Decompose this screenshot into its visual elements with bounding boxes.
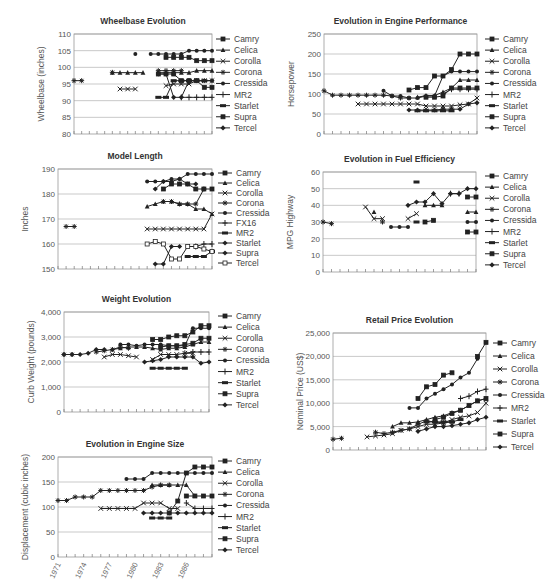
legend-item: Celica bbox=[218, 178, 260, 188]
legend-marker-icon bbox=[490, 252, 494, 256]
data-point bbox=[79, 78, 84, 83]
y-tick-label: 50 bbox=[46, 528, 55, 537]
legend-item: Corolla bbox=[485, 193, 530, 203]
data-point bbox=[458, 52, 462, 56]
data-point bbox=[433, 74, 437, 78]
data-point bbox=[184, 494, 188, 498]
legend-marker-icon bbox=[223, 358, 227, 362]
legend-label: Supra bbox=[503, 112, 526, 122]
legend-item: Corona bbox=[485, 67, 531, 77]
legend-label: Tercel bbox=[236, 258, 259, 268]
data-point bbox=[372, 209, 377, 214]
legend-label: Tercel bbox=[236, 400, 259, 410]
y-tick-label: 50 bbox=[311, 185, 320, 194]
legend-label: Celica bbox=[236, 322, 260, 332]
data-point bbox=[475, 70, 479, 74]
y-tick-label: 90 bbox=[62, 97, 71, 106]
chart-title: Evolution in Engine Size bbox=[86, 439, 185, 449]
legend-item: Celica bbox=[485, 45, 527, 55]
legend-label: Camry bbox=[234, 34, 260, 44]
y-tick-label: 160 bbox=[42, 240, 56, 249]
y-tick-label: 100 bbox=[308, 90, 322, 99]
y-tick-label: 0 bbox=[326, 446, 331, 455]
y-tick-label: 10 bbox=[311, 251, 320, 260]
legend-marker-icon bbox=[222, 240, 227, 245]
legend-marker-icon bbox=[220, 104, 226, 107]
legend-item: FX16 bbox=[218, 218, 257, 228]
x-tick-label: 1974 bbox=[348, 454, 363, 455]
data-point bbox=[98, 488, 103, 493]
series-line bbox=[461, 389, 487, 398]
data-point bbox=[81, 495, 86, 500]
y-tick-label: 5,000 bbox=[310, 423, 331, 432]
legend-item: Corona bbox=[218, 344, 264, 354]
legend-item: Celica bbox=[485, 182, 527, 192]
data-point bbox=[177, 176, 182, 181]
data-point bbox=[199, 324, 203, 328]
legend-label: FX16 bbox=[236, 218, 257, 228]
data-point bbox=[195, 49, 199, 53]
legend-label: Supra bbox=[236, 248, 259, 258]
data-point bbox=[390, 94, 394, 98]
legend-label: Corona bbox=[236, 198, 264, 208]
data-point bbox=[483, 415, 488, 420]
data-point bbox=[467, 70, 471, 74]
y-axis-label: Displacement (cubic inches) bbox=[20, 454, 30, 560]
data-point bbox=[424, 420, 430, 423]
data-point bbox=[201, 255, 207, 258]
y-tick-label: 3,000 bbox=[41, 333, 62, 342]
data-point bbox=[194, 94, 199, 100]
y-tick-label: 2,000 bbox=[41, 358, 62, 367]
data-point bbox=[176, 471, 180, 475]
data-point bbox=[142, 359, 147, 364]
data-point bbox=[143, 343, 147, 347]
x-tick-label: 1986 bbox=[176, 561, 191, 579]
data-point bbox=[56, 498, 61, 503]
legend-label: Celica bbox=[234, 45, 258, 55]
data-point bbox=[458, 70, 462, 74]
data-point bbox=[175, 334, 179, 338]
data-point bbox=[118, 343, 122, 347]
y-tick-label: 15,000 bbox=[306, 376, 331, 385]
data-point bbox=[187, 49, 191, 53]
data-point bbox=[390, 430, 395, 435]
data-point bbox=[185, 255, 191, 258]
data-point bbox=[72, 224, 77, 229]
data-point bbox=[373, 430, 378, 435]
data-point bbox=[414, 181, 420, 184]
data-point bbox=[474, 195, 478, 199]
series-line bbox=[188, 252, 212, 257]
data-point bbox=[407, 96, 411, 100]
legend-marker-icon bbox=[223, 201, 228, 206]
legend-item: Tercel bbox=[485, 260, 526, 270]
data-point bbox=[201, 241, 206, 247]
y-tick-label: 85 bbox=[62, 113, 71, 122]
data-point bbox=[423, 220, 427, 224]
data-point bbox=[158, 483, 163, 488]
data-point bbox=[373, 93, 378, 98]
data-point bbox=[194, 187, 198, 191]
data-point bbox=[475, 417, 480, 422]
legend-marker-icon bbox=[497, 420, 503, 423]
legend-label: Camry bbox=[236, 456, 262, 466]
series-corona bbox=[56, 483, 172, 504]
legend-label: MR2 bbox=[236, 228, 254, 238]
data-point bbox=[450, 371, 454, 375]
legend-marker-icon bbox=[221, 92, 226, 98]
data-point bbox=[416, 86, 420, 90]
legend-marker-icon bbox=[498, 432, 502, 436]
data-point bbox=[406, 225, 410, 229]
legend-marker-icon bbox=[223, 347, 228, 352]
legend-item: Camry bbox=[218, 311, 262, 321]
legend-item: Tercel bbox=[218, 258, 259, 268]
series-camry bbox=[164, 55, 214, 62]
data-point bbox=[206, 359, 211, 364]
y-tick-label: 200 bbox=[42, 453, 56, 462]
legend-item: Starlet bbox=[485, 101, 528, 111]
chart-title: Weight Evolution bbox=[102, 294, 171, 304]
data-point bbox=[166, 517, 172, 520]
legend-item: Supra bbox=[218, 389, 259, 399]
legend-item: Camry bbox=[493, 338, 537, 348]
legend-label: Cressida bbox=[236, 208, 270, 218]
legend-label: Tercel bbox=[511, 442, 534, 452]
